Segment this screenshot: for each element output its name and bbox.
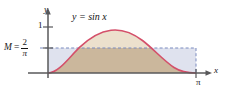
mean-value-letter: M (4, 43, 12, 53)
mean-value-equals-sign: = (14, 43, 19, 53)
x-axis-label: x (214, 66, 218, 75)
mean-value-label: M = 2 π (4, 38, 28, 58)
plot-canvas (0, 0, 228, 94)
x-tick-label-pi: π (196, 78, 201, 87)
curve-equation-label: y = sin x (72, 12, 107, 22)
fraction-numerator: 2 (22, 38, 29, 47)
fraction-denominator: π (22, 49, 29, 58)
x-axis-arrowhead (206, 70, 213, 76)
sine-mean-value-figure: y x π 1 y = sin x M = 2 π (0, 0, 228, 94)
y-tick-label-one: 1 (38, 21, 43, 30)
y-axis-label: y (44, 5, 48, 14)
mean-value-fraction: 2 π (21, 38, 28, 58)
